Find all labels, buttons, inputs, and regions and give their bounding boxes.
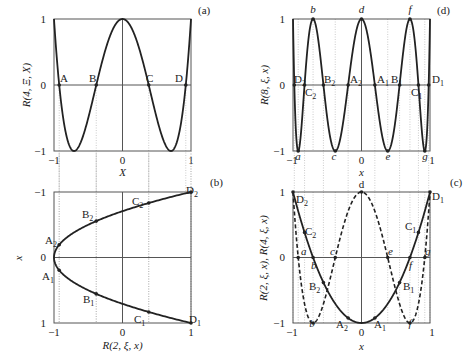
point-label-a2: A2 [350,73,362,88]
y-axis-label: R(4, Ξ, X) [20,63,33,109]
point-label-b2: B2 [309,280,320,295]
y-axis-label: R(8, ξ, x) [258,65,271,106]
data-point-marker [94,292,98,296]
ytick-top: 1 [280,186,286,198]
min-label-b: b [309,317,315,329]
point-label-a1: A1 [42,270,54,285]
data-point-marker [322,281,326,285]
data-point-marker [184,83,188,87]
data-point-marker [417,231,421,235]
point-label-a2: A2 [45,234,57,249]
xtick-mid: 0 [359,326,365,338]
figure: 1 0 −1 −1 0 1 X R(4, Ξ, X) (a) A B C D −… [0,0,472,358]
panel-tag: (c) [450,176,463,189]
point-label-a: A [60,72,68,84]
data-point-marker [408,17,412,21]
xtick-right: 1 [429,326,435,338]
data-point-marker [94,219,98,223]
point-label-b: B [89,72,96,84]
zero-label-c: c [330,245,335,257]
xtick-left: −1 [48,326,60,338]
ytick-top: 1 [280,13,286,25]
point-label-c1: C1 [411,86,422,101]
ytick-mid: 0 [280,251,286,263]
point-label-b2: B2 [324,73,335,88]
xtick-mid: 0 [359,154,365,166]
zero-label-f: f [409,259,414,271]
data-point-marker [360,17,364,21]
zero-label-a: a [301,245,307,257]
panel-tag: (d) [437,4,450,17]
x-axis-label: x [358,166,364,178]
point-label-d2: D2 [186,184,198,199]
extremum-label-g: g [422,150,428,162]
extremum-label-f: f [408,3,413,15]
xtick-left: −1 [48,154,60,166]
point-label-c1: C1 [405,220,416,235]
point-label-d1: D1 [432,190,444,205]
ytick-bottom: −1 [34,145,46,157]
zero-label-e: e [388,245,393,257]
data-point-marker [57,243,61,247]
panel-a: 1 0 −1 −1 0 1 X R(4, Ξ, X) (a) A B C D [20,4,211,192]
ytick-top: 1 [41,13,47,25]
point-label-b2: B2 [82,208,93,223]
data-point-marker [398,281,402,285]
data-point-marker [291,190,295,194]
xtick-left: −1 [286,326,298,338]
ytick-bottom: −1 [273,145,285,157]
data-point-marker [346,316,350,320]
extremum-label-c: c [332,150,337,162]
data-point-marker [147,201,151,205]
panel-d: 1 0 −1 −1 0 1 x R(8, ξ, x) (d) b d f a c… [258,3,450,192]
point-label-b1: B1 [83,293,94,308]
point-label-d2: D2 [296,193,308,208]
panel-c: 1 0 −1 −1 0 1 x R(2, ξ, x), R(4, ξ, x) (… [257,176,463,352]
point-label-c1: C1 [134,313,145,328]
ytick-bottom: −1 [273,317,285,329]
ytick-bottom: 1 [41,317,47,329]
data-point-marker [360,190,364,194]
data-point-marker [296,256,300,260]
zero-label-g: g [425,245,431,257]
point-label-a1: A1 [377,73,389,88]
point-label-d: D [175,72,183,84]
xtick-mid: 0 [120,326,126,338]
extremum-label-d: d [359,178,365,190]
figure-canvas: 1 0 −1 −1 0 1 X R(4, Ξ, X) (a) A B C D −… [0,0,472,358]
data-point-marker [57,268,61,272]
point-label-a2: A2 [336,318,348,333]
panel-b: −1 0 1 −1 0 1 R(2, ξ, x) x (b) D2 C2 B2 … [12,151,223,352]
x-axis-label: x [358,340,364,352]
xtick-right: 1 [429,154,435,166]
data-point-marker [147,310,151,314]
point-label-b1: B1 [403,280,414,295]
xtick-right: 1 [188,326,194,338]
panel-tag: (a) [198,4,211,17]
point-label-c2: C2 [305,86,316,101]
ytick-mid: 0 [41,79,47,91]
x-axis-label: X [118,166,127,178]
y-axis-label: x [12,255,24,261]
extremum-label-d: d [359,3,365,15]
ytick-top: −1 [34,186,46,198]
point-label-d1: D1 [432,73,444,88]
panel-tag: (b) [210,176,223,189]
extremum-label-e: e [386,150,391,162]
extremum-label-b: b [310,3,316,15]
zero-label-b: b [311,259,317,271]
extremum-label-a: a [295,150,301,162]
point-label-a1: A1 [374,318,386,333]
ytick-mid: 0 [280,79,286,91]
data-point-marker [427,83,431,87]
y-axis-label: R(2, ξ, x), R(4, ξ, x) [257,215,270,302]
x-axis-label: R(2, ξ, x) [101,339,142,352]
xtick-mid: 0 [120,154,126,166]
data-point-marker [311,17,315,21]
ytick-mid: 0 [41,251,47,263]
point-label-c: C [146,72,153,84]
